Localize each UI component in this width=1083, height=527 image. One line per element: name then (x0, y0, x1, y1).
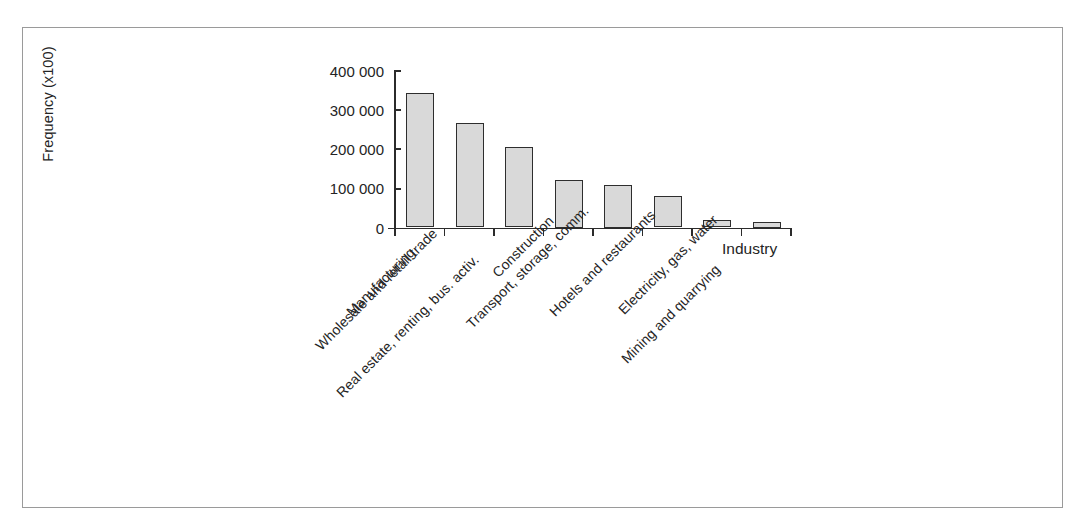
x-tick-mark-4 (592, 228, 594, 236)
y-tick-label-300000: 300 000 (298, 103, 384, 118)
bar-mining-quarrying (753, 222, 781, 228)
y-tick-label-100000: 100 000 (298, 181, 384, 196)
y-tick-label-200000: 200 000 (298, 142, 384, 157)
x-tick-mark-1 (444, 228, 446, 236)
bar-real-estate (505, 147, 533, 228)
y-tick-mark-300000 (394, 109, 401, 111)
y-tick-mark-100000 (394, 188, 401, 190)
bar-transport-storage (604, 185, 632, 228)
x-tick-mark-8 (790, 228, 792, 236)
x-tick-mark-2 (493, 228, 495, 236)
bar-wholesale-retail (456, 123, 484, 227)
x-axis-title: Industry (722, 240, 777, 258)
y-axis-title: Frequency (x100) (40, 14, 56, 194)
x-tick-mark-0 (394, 228, 396, 236)
bar-hotels-restaurants (654, 196, 682, 227)
y-tick-mark-200000 (394, 148, 401, 150)
x-category-label-real-estate: Real estate, renting, bus. activ. (333, 251, 482, 400)
bar-manufacturing (406, 93, 434, 227)
y-tick-label-0: 0 (298, 221, 384, 236)
y-tick-label-400000: 400 000 (298, 64, 384, 79)
bar-chart-figure: Frequency (x100) 400 000 300 000 200 000… (0, 0, 1083, 527)
x-category-label-wholesale-retail: Wholesale and retail trade (312, 225, 440, 353)
x-category-label-mining-quarrying: Mining and quarrying (618, 261, 723, 366)
y-tick-mark-400000 (394, 70, 401, 72)
x-tick-mark-7 (741, 228, 743, 236)
